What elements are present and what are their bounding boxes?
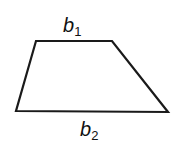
- bottom-base-label: b2: [80, 119, 98, 142]
- trapezoid-shape: [16, 41, 168, 112]
- top-base-label: b1: [63, 15, 81, 38]
